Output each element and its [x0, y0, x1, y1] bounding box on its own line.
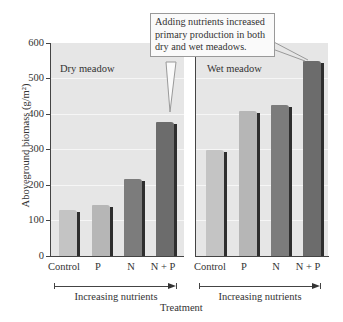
callout-annotation: Adding nutrients increased primary produ… [150, 13, 275, 57]
